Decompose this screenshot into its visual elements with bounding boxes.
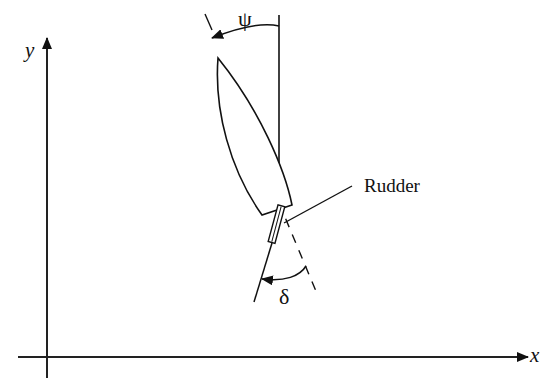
rudder-callout-label: Rudder xyxy=(364,176,420,195)
rudder-direction-line xyxy=(254,243,272,302)
psi-heading-angle-label: ψ xyxy=(238,8,252,30)
delta-angle-arc xyxy=(262,266,306,280)
y-axis-label: y xyxy=(25,40,34,61)
rudder-leader-line xyxy=(284,186,352,223)
x-axis-label: x xyxy=(530,345,539,366)
heading-dashed-line xyxy=(205,14,212,30)
delta-rudder-angle-label: δ xyxy=(279,286,289,308)
ship-hull xyxy=(217,58,292,215)
ship-rudder-diagram xyxy=(0,0,551,387)
